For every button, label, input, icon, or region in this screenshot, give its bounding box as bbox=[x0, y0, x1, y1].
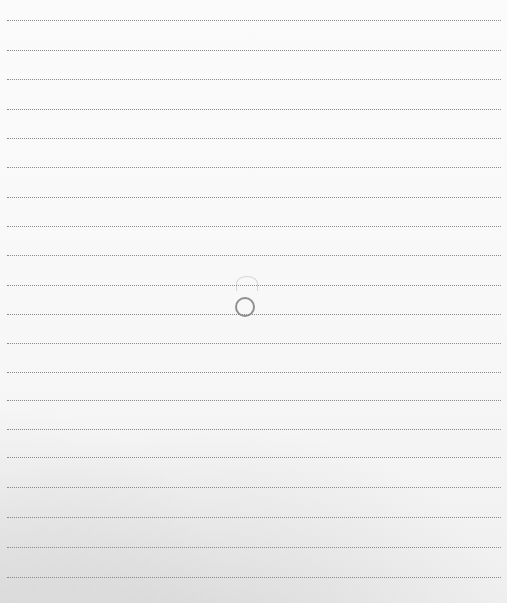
faint-pencil-arc bbox=[236, 276, 258, 291]
ruled-line bbox=[7, 226, 501, 227]
ruled-line bbox=[7, 343, 501, 344]
ruled-line bbox=[7, 167, 501, 168]
ruled-line bbox=[7, 138, 501, 139]
ruled-line bbox=[7, 457, 501, 458]
ruled-line bbox=[7, 547, 501, 548]
ruled-line bbox=[7, 517, 501, 518]
ruled-line bbox=[7, 400, 501, 401]
ruled-line bbox=[7, 285, 501, 286]
ruled-line bbox=[7, 197, 501, 198]
ruled-line bbox=[7, 577, 501, 578]
lined-paper bbox=[0, 0, 507, 603]
ruled-line bbox=[7, 487, 501, 488]
ruled-line bbox=[7, 79, 501, 80]
ruled-line bbox=[7, 314, 501, 315]
ruled-line bbox=[7, 50, 501, 51]
ruled-line bbox=[7, 20, 501, 21]
ruled-line bbox=[7, 429, 501, 430]
ruled-line bbox=[7, 372, 501, 373]
ruled-line bbox=[7, 109, 501, 110]
ruled-line bbox=[7, 255, 501, 256]
